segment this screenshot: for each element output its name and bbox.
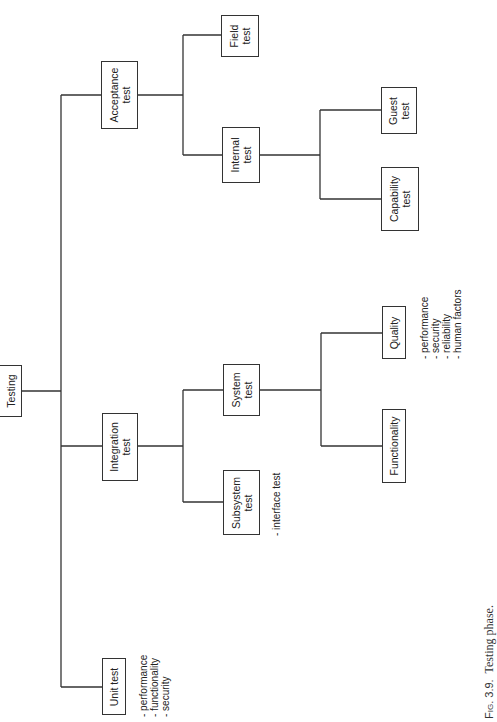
caption-text: Testing phase. — [482, 605, 496, 673]
node-label: Internal — [229, 137, 241, 172]
node-testing: Testing — [0, 365, 22, 417]
node-system-test: System test — [223, 364, 260, 416]
node-subsystem-test: Subsystem test — [223, 470, 260, 535]
caption-label: Fig. 3.9. — [483, 679, 495, 719]
node-label: Capability — [388, 176, 400, 222]
node-label: Testing — [5, 374, 17, 407]
node-functionality: Functionality — [382, 409, 406, 483]
node-label: test — [242, 477, 254, 529]
note-item: - interface test — [271, 473, 282, 536]
node-label: test — [120, 68, 132, 123]
node-label: System — [230, 372, 242, 407]
node-acceptance-test: Acceptance test — [101, 61, 138, 129]
node-label: Guest — [387, 96, 399, 124]
node-label: Acceptance — [108, 68, 120, 123]
node-field-test: Field test — [221, 15, 259, 57]
note-item: - reliability — [441, 290, 452, 359]
note-item: - human factors — [452, 290, 463, 359]
node-label: test — [242, 372, 254, 407]
node-integration-test: Integration test — [102, 413, 138, 481]
node-label: test — [399, 96, 411, 124]
node-label: test — [241, 137, 253, 172]
quality-notes: - performance - security - reliability -… — [419, 290, 463, 359]
node-label: Functionality — [388, 417, 400, 476]
note-item: - performance — [419, 290, 430, 359]
node-internal-test: Internal test — [222, 127, 260, 183]
node-guest-test: Guest test — [381, 87, 417, 134]
node-label: Field — [228, 25, 240, 48]
node-label: test — [120, 422, 132, 472]
node-quality: Quality — [382, 306, 406, 359]
node-label: Subsystem — [230, 477, 242, 529]
subsystem-test-notes: - interface test — [271, 473, 282, 536]
node-unit-test: Unit test — [102, 658, 126, 715]
node-label: test — [400, 176, 412, 222]
unit-test-notes: - performance - functionality - security — [138, 655, 171, 717]
figure-caption: Fig. 3.9. Testing phase. — [482, 605, 497, 719]
node-label: test — [240, 25, 252, 48]
note-item: - security — [160, 655, 171, 717]
note-item: - functionality — [149, 655, 160, 717]
note-item: - security — [430, 290, 441, 359]
node-label: Integration — [108, 422, 120, 472]
note-item: - performance — [138, 655, 149, 717]
node-label: Unit test — [108, 667, 120, 706]
node-label: Quality — [388, 316, 400, 349]
node-capability-test: Capability test — [381, 167, 419, 231]
